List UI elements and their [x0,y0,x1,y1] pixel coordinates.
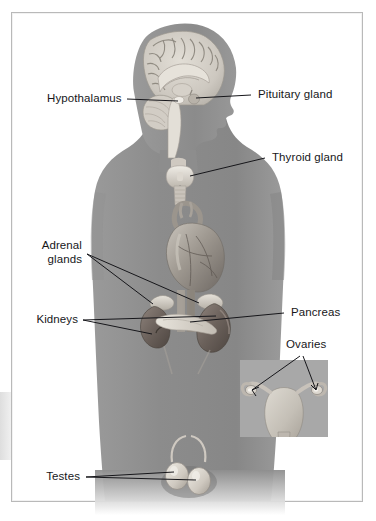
label-adrenal-glands-line2: glands [10,252,82,266]
label-pancreas: Pancreas [291,306,340,320]
label-ovaries: Ovaries [286,338,326,352]
testis-right [188,468,211,495]
testis-left [166,463,189,490]
label-adrenal-glands: Adrenal glands [10,238,82,266]
label-thyroid-gland: Thyroid gland [272,151,343,165]
label-testes: Testes [10,470,80,484]
hypothalamus-structure [174,97,184,104]
figure-page: Hypothalamus Pituitary gland Thyroid gla… [0,0,376,521]
label-kidneys: Kidneys [10,313,78,327]
label-adrenal-glands-line1: Adrenal [10,238,82,252]
label-hypothalamus: Hypothalamus [47,92,122,106]
label-pituitary-gland: Pituitary gland [258,88,332,102]
uterus-ovaries-inset [240,360,328,448]
thalamus [172,84,192,97]
